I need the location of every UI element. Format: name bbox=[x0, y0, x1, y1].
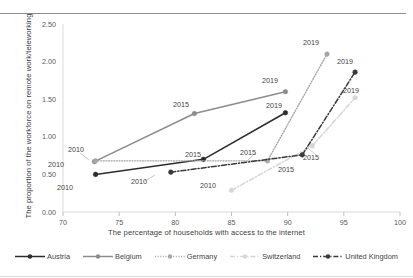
data-point-marker bbox=[310, 144, 315, 149]
point-year-label: 2015 bbox=[278, 165, 294, 174]
data-point-marker bbox=[192, 111, 197, 116]
point-year-label: 2015 bbox=[185, 150, 201, 159]
data-point-marker bbox=[93, 172, 98, 177]
legend-marker bbox=[96, 254, 100, 258]
x-axis-title: The percentage of households with access… bbox=[0, 228, 413, 237]
series-austria bbox=[93, 110, 287, 176]
x-axis-tick-label: 90 bbox=[273, 218, 303, 227]
legend-item-united-kingdom[interactable]: United Kingdom bbox=[313, 252, 398, 261]
point-year-label: 2019 bbox=[266, 101, 282, 110]
data-point-marker bbox=[169, 170, 174, 175]
chart-container: 0.000.501.001.502.002.50707580859095100 … bbox=[0, 0, 413, 278]
point-year-label: 2019 bbox=[337, 57, 353, 66]
legend-swatch-icon bbox=[15, 252, 45, 261]
data-point-marker bbox=[325, 52, 330, 57]
legend-item-belgium[interactable]: Belgium bbox=[83, 252, 142, 261]
point-year-label: 2010 bbox=[57, 183, 73, 192]
point-year-label: 2010 bbox=[48, 160, 64, 169]
legend-item-austria[interactable]: Austria bbox=[15, 252, 70, 261]
point-year-label: 2015 bbox=[240, 148, 256, 157]
point-year-label: 2015 bbox=[303, 153, 319, 162]
legend-label: Germany bbox=[187, 252, 217, 261]
legend-swatch-icon bbox=[313, 252, 343, 261]
x-axis-tick-label: 70 bbox=[48, 218, 78, 227]
legend-label: Switzerland bbox=[262, 252, 300, 261]
legend-swatch-icon bbox=[83, 252, 113, 261]
point-year-label: 2019 bbox=[343, 86, 359, 95]
x-axis-tick-label: 100 bbox=[385, 218, 413, 227]
x-axis-tick-label: 75 bbox=[104, 218, 134, 227]
legend-item-switzerland[interactable]: Switzerland bbox=[230, 252, 300, 261]
x-axis-tick-label: 95 bbox=[329, 218, 359, 227]
point-year-label: 2010 bbox=[131, 177, 147, 186]
legend-marker bbox=[168, 254, 172, 258]
legend-item-germany[interactable]: Germany bbox=[155, 252, 217, 261]
point-year-label: 2019 bbox=[303, 38, 319, 47]
y-axis-title-wrapper: The proportion of the workforce on remot… bbox=[19, 13, 39, 219]
legend-label: United Kingdom bbox=[345, 252, 398, 261]
series-switzerland bbox=[229, 95, 357, 192]
point-year-label: 2019 bbox=[262, 76, 278, 85]
data-point-marker bbox=[353, 70, 358, 75]
point-year-label: 2015 bbox=[173, 100, 189, 109]
legend-marker bbox=[326, 254, 330, 258]
bottom-divider-rule bbox=[0, 276, 413, 277]
data-point-marker bbox=[283, 89, 288, 94]
data-point-marker bbox=[93, 159, 98, 164]
legend-marker bbox=[28, 254, 32, 258]
legend-swatch-icon bbox=[155, 252, 185, 261]
legend-label: Austria bbox=[47, 252, 70, 261]
data-point-marker bbox=[283, 110, 288, 115]
callout-leader-line bbox=[80, 153, 89, 160]
legend-label: Belgium bbox=[115, 252, 142, 261]
series-line bbox=[96, 113, 286, 175]
series-line bbox=[232, 98, 356, 190]
series-germany bbox=[93, 52, 329, 163]
legend-marker bbox=[243, 254, 247, 258]
y-axis-title: The proportion of the workforce on remot… bbox=[24, 13, 34, 219]
x-axis-tick-label: 80 bbox=[160, 218, 190, 227]
chart-legend: AustriaBelgiumGermanySwitzerlandUnited K… bbox=[0, 252, 413, 261]
data-point-marker bbox=[229, 188, 234, 193]
x-axis-tick-label: 85 bbox=[217, 218, 247, 227]
point-year-label: 2010 bbox=[68, 145, 84, 154]
point-year-label: 2010 bbox=[200, 181, 216, 190]
data-point-marker bbox=[353, 95, 358, 100]
legend-swatch-icon bbox=[230, 252, 260, 261]
